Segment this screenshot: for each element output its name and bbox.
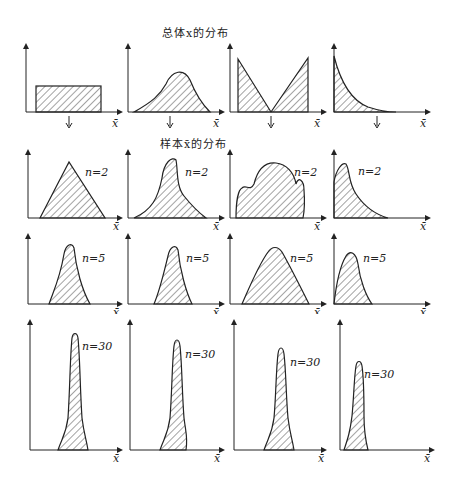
svg-text:n=5: n=5 [290,252,313,265]
svg-text:n=5: n=5 [363,252,386,265]
svg-text:n=2: n=2 [294,166,317,179]
svg-text:n=30: n=30 [185,348,215,361]
svg-text:x̄: x̄ [213,117,220,130]
panel-n2-v: n=2 x̄ [224,148,329,230]
svg-text:x̄: x̄ [314,306,321,314]
svg-text:x̄: x̄ [314,117,321,130]
svg-text:x̄: x̄ [113,452,120,464]
panel-n30-uniform: n=30 x̄ [20,318,125,464]
panel-n30-v: n=30 x̄ [224,318,329,464]
svg-text:x̄: x̄ [213,306,220,314]
svg-text:x̄: x̄ [213,220,220,230]
panel-n30-exponential: n=30 x̄ [328,318,438,464]
panel-n2-exponential: n=2 x̄ [328,148,438,230]
svg-text:x̄: x̄ [420,306,427,314]
svg-text:n=5: n=5 [186,252,209,265]
svg-text:n=30: n=30 [290,356,320,369]
panel-n5-exponential: n=5 x̄ [328,232,438,314]
axis-label: x̄ [112,117,119,130]
panel-n5-v: n=5 x̄ [224,232,329,314]
svg-text:n=30: n=30 [364,368,394,381]
sample-size-label: n=2 [85,166,108,179]
panel-n5-bell: n=5 x̄ [122,232,227,314]
population-title: 总体x的分布 [162,24,229,40]
panel-population-bell: x̄ [122,40,227,130]
panel-n2-bell: n=2 x̄ [122,148,227,230]
svg-text:x̄: x̄ [318,452,325,464]
svg-text:x̄: x̄ [420,117,427,130]
svg-text:x̄: x̄ [314,220,321,230]
svg-text:n=5: n=5 [82,252,105,265]
panel-population-exponential: x̄ [328,40,438,130]
panel-n5-uniform: n=5 x̄ [20,232,125,314]
svg-text:n=2: n=2 [185,166,208,179]
panel-population-v: x̄ [224,40,329,130]
panel-population-uniform: x̄ [20,40,125,130]
svg-text:x̄: x̄ [113,220,120,230]
svg-text:x̄: x̄ [424,452,431,464]
panel-n2-uniform: n=2 x̄ [20,148,125,230]
svg-text:x̄: x̄ [214,452,221,464]
svg-text:x̄: x̄ [420,220,427,230]
svg-text:n=30: n=30 [82,340,112,353]
svg-text:n=2: n=2 [358,165,381,178]
svg-text:x̄: x̄ [113,306,120,314]
panel-n30-bell: n=30 x̄ [122,318,227,464]
